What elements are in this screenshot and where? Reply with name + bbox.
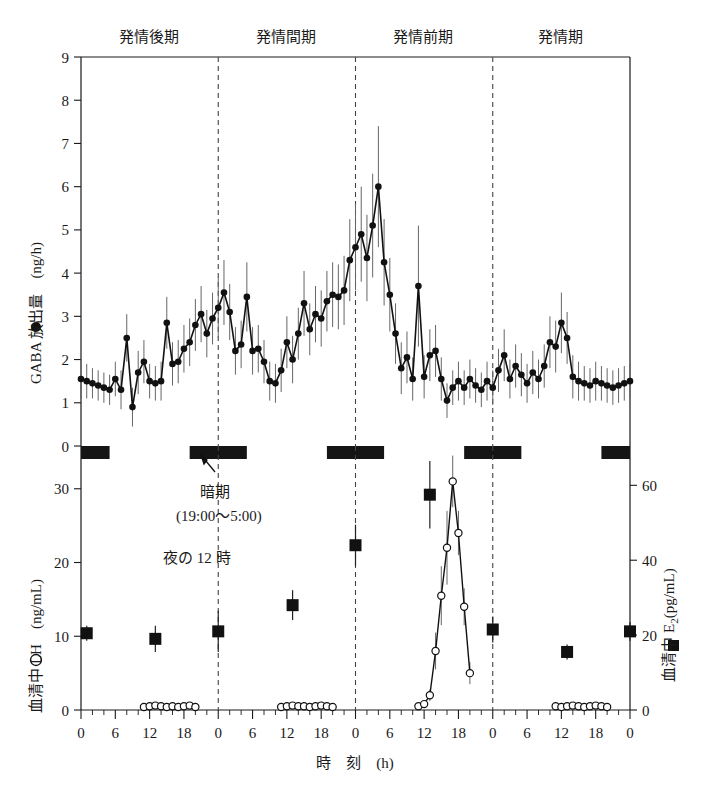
x-tick-label: 0 (352, 725, 360, 741)
gaba-point (570, 374, 577, 381)
gaba-point (335, 294, 342, 301)
gaba-point (112, 376, 119, 383)
e2-axis-title-main: 血清中 E (661, 624, 677, 682)
e2-tick-label: 0 (642, 703, 650, 719)
gaba-point (529, 369, 536, 376)
gaba-point (181, 345, 188, 352)
gaba-point (518, 371, 525, 378)
gaba-point (472, 382, 479, 389)
lh-point (426, 692, 433, 699)
gaba-point (581, 380, 588, 387)
gaba-point (524, 380, 531, 387)
gaba-point (221, 289, 228, 296)
lh-point (329, 703, 336, 710)
gaba-point (192, 322, 199, 329)
lh-axis-title: 血清中 LH (ng/mL) (28, 579, 45, 713)
gaba-point (592, 378, 599, 385)
gaba-point (278, 367, 285, 374)
gaba-tick-label: 5 (62, 222, 70, 238)
phase-label-0: 発情後期 (119, 29, 179, 45)
gaba-point (284, 339, 291, 346)
lh-axis-title-text: 血清中 LH (ng/mL) (28, 579, 45, 713)
gaba-point (89, 380, 96, 387)
lh-y-ticks: 0102030 (54, 481, 81, 718)
gaba-point (163, 320, 170, 327)
gaba-point (358, 231, 365, 238)
gaba-point (295, 330, 302, 337)
x-tick-label: 18 (176, 725, 191, 741)
gaba-point (175, 358, 182, 365)
x-tick-label: 18 (588, 725, 603, 741)
e2-axis-title-text: 血清中 E2(pg/mL) (661, 568, 680, 681)
e2-point (149, 633, 161, 645)
e2-axis-title: 血清中 E2(pg/mL) (661, 568, 680, 681)
gaba-point (232, 348, 239, 355)
gaba-point (467, 376, 474, 383)
gaba-point (135, 369, 142, 376)
gaba-point (404, 354, 411, 361)
gaba-point (604, 382, 611, 389)
phase-label-2: 発情前期 (393, 29, 453, 45)
gaba-point (432, 348, 439, 355)
lh-point (443, 544, 450, 551)
phase-label-1: 発情間期 (256, 29, 316, 45)
gaba-y-ticks: 0123456789 (62, 50, 82, 455)
gaba-point (455, 378, 462, 385)
x-tick-label: 12 (279, 725, 294, 741)
lh-tick-label: 30 (54, 481, 69, 497)
midnight-annotation: 夜の 12 時 (163, 550, 231, 566)
gaba-tick-label: 6 (62, 179, 70, 195)
lh-tick-label: 10 (54, 629, 69, 645)
x-tick-label: 18 (451, 725, 466, 741)
e2-point (624, 625, 636, 637)
lh-tick-label: 0 (62, 703, 70, 719)
lh-point (466, 670, 473, 677)
gaba-axis-title: GABA 放出量 (ng/h) (28, 242, 45, 384)
gaba-point (364, 255, 371, 262)
gaba-point (444, 397, 451, 404)
gaba-point (547, 339, 554, 346)
gaba-panel: 0123456789 (62, 50, 634, 455)
x-tick-label: 6 (386, 725, 394, 741)
gaba-point (249, 348, 256, 355)
e2-point (81, 627, 93, 639)
e2-tick-label: 60 (642, 478, 657, 494)
gaba-point (198, 311, 205, 318)
dark-phase-bar (601, 446, 630, 459)
gaba-point (312, 311, 319, 318)
lh-point (192, 703, 199, 710)
gaba-point (238, 341, 245, 348)
gaba-point (261, 358, 268, 365)
gaba-point (501, 352, 508, 359)
x-tick-label: 12 (417, 725, 432, 741)
x-tick-label: 0 (626, 725, 634, 741)
gaba-point (204, 330, 211, 337)
gaba-point (101, 384, 108, 391)
gaba-tick-label: 1 (62, 395, 70, 411)
lh-point (604, 703, 611, 710)
gaba-tick-label: 3 (62, 309, 70, 325)
gaba-tick-label: 9 (62, 50, 70, 66)
lh-point (461, 603, 468, 610)
gaba-point (535, 376, 542, 383)
gaba-point (152, 380, 159, 387)
gaba-point (244, 294, 251, 301)
gaba-point (324, 298, 331, 305)
gaba-point (398, 365, 405, 372)
gaba-point (409, 376, 416, 383)
gaba-point (83, 378, 90, 385)
gaba-point (118, 387, 125, 394)
gaba-tick-label: 0 (62, 439, 70, 455)
phase-labels: 発情後期 発情間期 発情前期 発情期 (119, 29, 583, 45)
x-axis-tick-labels: 0612180612180612180612180 (77, 725, 634, 741)
gaba-point (215, 304, 222, 311)
gaba-point (169, 361, 176, 368)
gaba-point (564, 335, 571, 342)
gaba-point (489, 384, 496, 391)
gaba-point (421, 374, 428, 381)
gaba-point (346, 257, 353, 264)
lh-e2-panel: 0102030 0204060 061218061218061218061218… (54, 446, 657, 741)
gaba-point (146, 378, 153, 385)
gaba-point (329, 291, 336, 298)
e2-point (487, 623, 499, 635)
